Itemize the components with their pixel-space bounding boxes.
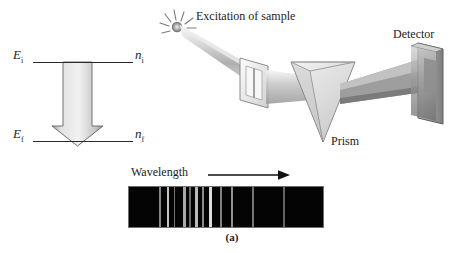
upper-quantum-number-label: ni (135, 47, 144, 65)
spectral-line (283, 187, 285, 227)
prism-label: Prism (331, 134, 359, 149)
spectral-line (167, 187, 170, 227)
spectral-line (252, 187, 254, 227)
lower-quantum-number-label: nf (135, 126, 144, 144)
spectral-line (231, 187, 233, 227)
starburst-icon (160, 10, 196, 33)
upper-energy-label: Ei (13, 47, 23, 65)
spectral-line (202, 187, 204, 227)
spectral-line (183, 187, 185, 227)
sample-holder (240, 58, 268, 108)
emission-spectrum-strip (128, 186, 324, 228)
spectral-line (195, 187, 197, 227)
detector (411, 43, 443, 124)
detector-label: Detector (393, 27, 434, 42)
lower-energy-label: Ef (13, 126, 24, 144)
arrow-right-icon (206, 168, 296, 182)
incident-light-beam (180, 25, 246, 80)
upper-energy-level-line (33, 62, 133, 63)
excitation-label: Excitation of sample (196, 9, 295, 24)
lower-energy-level-line (33, 141, 133, 142)
spectral-line (209, 187, 212, 227)
emission-transition-arrow (52, 62, 103, 146)
spectral-line (220, 187, 222, 227)
spectral-line (189, 187, 190, 227)
spectral-line (174, 187, 176, 227)
spectral-line (159, 187, 161, 227)
emission-spectroscopy-figure: Ei ni Ef nf Excitation of sample Detecto… (0, 0, 464, 253)
wavelength-axis-label: Wavelength (131, 165, 188, 180)
figure-caption: (a) (0, 231, 464, 243)
